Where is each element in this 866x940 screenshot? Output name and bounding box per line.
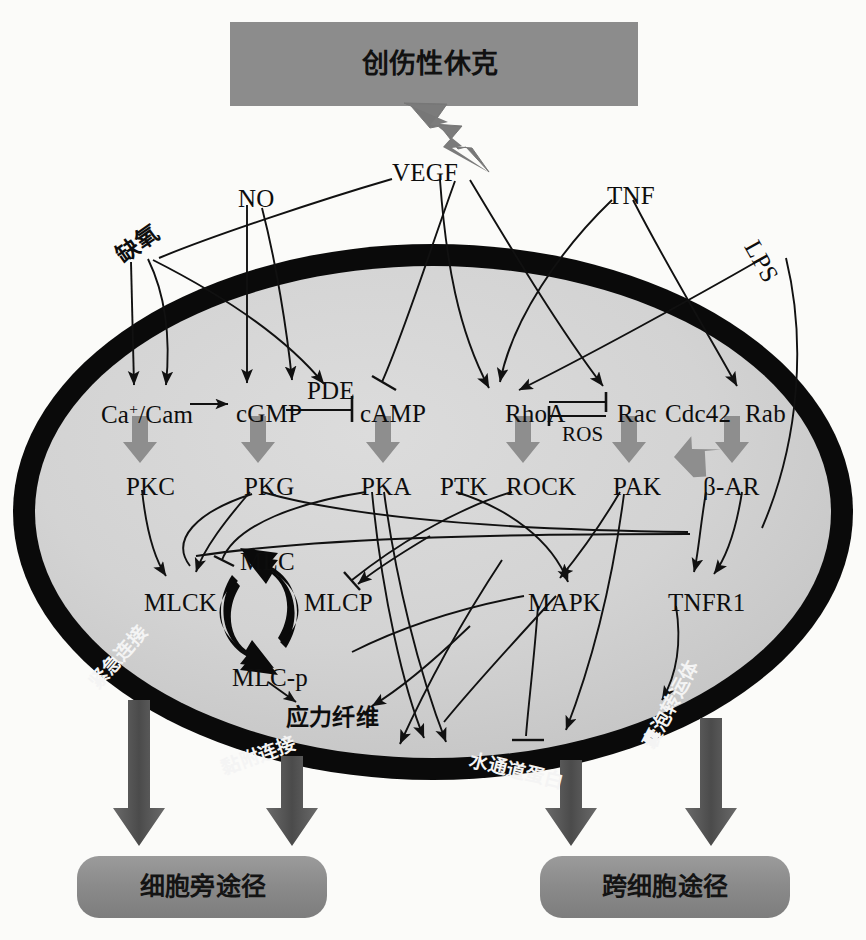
- ligand-tnf: TNF: [607, 183, 655, 208]
- node-camp: cAMP: [360, 401, 426, 426]
- node-rac: Rac: [617, 401, 656, 426]
- diagram-vector-layer: [0, 0, 866, 940]
- node-rab: Rab: [745, 401, 786, 426]
- node-ptk: PTK: [440, 474, 488, 499]
- node-pka: PKA: [361, 474, 412, 499]
- node-beta-ar: β-AR: [703, 474, 760, 499]
- node-pkc: PKC: [126, 474, 175, 499]
- ligand-vegf: VEGF: [392, 160, 458, 185]
- node-pkg: PKG: [244, 474, 295, 499]
- pathway-diagram: 创伤性休克 VEGF NO 缺氧 TNF LPS Ca+/Cam cGMP PD…: [0, 0, 866, 940]
- node-mapk: MAPK: [528, 590, 601, 615]
- node-mlc: MLC: [240, 549, 295, 574]
- node-mlcp: MLCP: [304, 590, 373, 615]
- cell-membrane: [13, 244, 853, 780]
- outcome-paracellular: 细胞旁途径: [140, 874, 266, 899]
- node-ca-cam: Ca+/Cam: [101, 401, 193, 427]
- ligand-no: NO: [238, 186, 275, 211]
- node-ros: ROS: [562, 424, 603, 445]
- node-cgmp: cGMP: [236, 401, 302, 426]
- node-pak: PAK: [613, 474, 661, 499]
- node-tnfr1: TNFR1: [668, 590, 745, 615]
- node-pde: PDE: [307, 378, 355, 403]
- node-mlck: MLCK: [144, 590, 217, 615]
- node-mlc-p: MLC-p: [232, 665, 308, 690]
- outcome-transcellular: 跨细胞途径: [602, 874, 728, 899]
- node-rhoa: RhoA: [505, 401, 566, 426]
- node-cdc42: Cdc42: [665, 401, 731, 426]
- stimulus-title: 创伤性休克: [362, 50, 498, 77]
- node-rock: ROCK: [506, 474, 576, 499]
- node-stress-fibers: 应力纤维: [286, 706, 379, 729]
